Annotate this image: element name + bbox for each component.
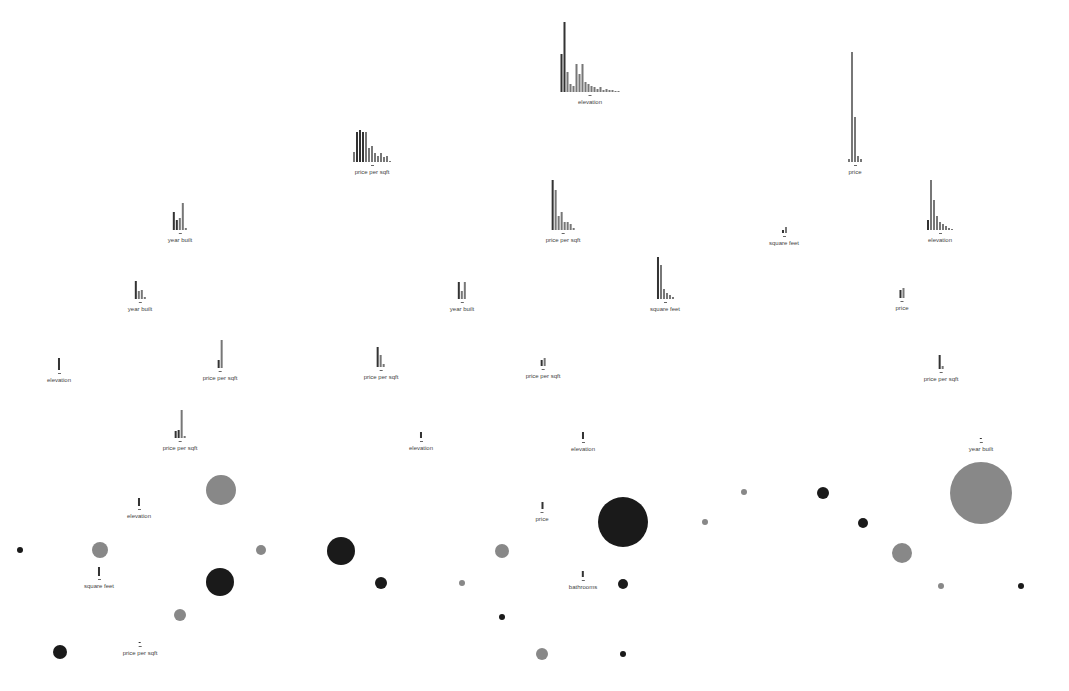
split-node[interactable]: square feet xyxy=(650,257,680,312)
split-node[interactable]: price xyxy=(895,288,908,311)
leaf-node-circle[interactable] xyxy=(817,487,829,499)
node-histogram xyxy=(458,282,466,299)
leaf-node-circle[interactable] xyxy=(598,497,648,547)
leaf-node-circle[interactable] xyxy=(327,537,355,565)
split-node[interactable]: year built xyxy=(168,203,192,243)
histogram-bar xyxy=(606,89,608,92)
leaf-node-circle[interactable] xyxy=(938,583,944,589)
leaf-node-circle[interactable] xyxy=(53,645,67,659)
leaf-node-circle[interactable] xyxy=(741,489,747,495)
histogram-bar xyxy=(672,297,674,299)
histogram-bar xyxy=(603,90,605,92)
split-node[interactable]: price per sqft xyxy=(924,355,959,382)
histogram-bar xyxy=(612,90,614,92)
node-field-label: elevation xyxy=(578,99,602,105)
leaf-node-circle[interactable] xyxy=(620,651,626,657)
split-marker-icon xyxy=(58,373,61,374)
leaf-node-circle[interactable] xyxy=(618,579,628,589)
histogram-bar xyxy=(857,156,859,162)
split-node[interactable]: square feet xyxy=(769,227,799,246)
split-node[interactable]: price per sqft xyxy=(546,180,581,243)
histogram-bar xyxy=(942,366,944,369)
leaf-node-circle[interactable] xyxy=(495,544,509,558)
node-field-label: square feet xyxy=(769,240,799,246)
histogram-bar xyxy=(185,228,187,230)
leaf-node-circle[interactable] xyxy=(536,648,548,660)
histogram-bar xyxy=(362,132,364,162)
node-histogram xyxy=(134,281,145,299)
split-node[interactable]: elevation xyxy=(927,180,953,243)
split-node[interactable]: price xyxy=(535,502,548,522)
histogram-bar xyxy=(570,224,572,230)
split-node[interactable]: elevation xyxy=(561,22,620,105)
histogram-bar xyxy=(386,156,388,162)
split-marker-icon xyxy=(542,369,545,370)
histogram-bar xyxy=(899,290,901,298)
split-marker-icon xyxy=(783,236,786,237)
histogram-bar xyxy=(371,146,373,162)
histogram-bar xyxy=(582,571,584,577)
split-marker-icon xyxy=(460,302,463,303)
leaf-node-circle[interactable] xyxy=(950,462,1012,524)
split-node[interactable]: elevation xyxy=(571,432,595,452)
decision-tree-canvas[interactable]: elevationprice per sqftpriceyear builtpr… xyxy=(0,0,1069,691)
split-node[interactable]: bathrooms xyxy=(569,571,597,590)
histogram-bar xyxy=(594,87,596,92)
split-node[interactable]: elevation xyxy=(409,432,433,451)
histogram-bar xyxy=(182,203,184,230)
split-node[interactable]: price per sqft xyxy=(163,410,198,451)
split-node[interactable]: elevation xyxy=(127,498,151,519)
node-field-label: elevation xyxy=(47,377,71,383)
histogram-bar xyxy=(567,222,569,230)
node-field-label: price xyxy=(895,305,908,311)
histogram-bar xyxy=(588,84,590,92)
histogram-bar xyxy=(666,293,668,299)
split-node[interactable]: price per sqft xyxy=(364,347,399,380)
leaf-node-circle[interactable] xyxy=(375,577,387,589)
node-histogram xyxy=(218,340,223,368)
leaf-node-circle[interactable] xyxy=(858,518,868,528)
histogram-bar xyxy=(564,222,566,230)
split-marker-icon xyxy=(98,579,101,580)
split-node[interactable]: price per sqft xyxy=(526,358,561,379)
leaf-node-circle[interactable] xyxy=(17,547,23,553)
split-node[interactable]: square feet xyxy=(84,567,114,589)
histogram-bar xyxy=(933,200,935,230)
node-histogram xyxy=(138,498,140,506)
split-marker-icon xyxy=(664,302,667,303)
leaf-node-circle[interactable] xyxy=(256,545,266,555)
histogram-bar xyxy=(609,90,611,92)
node-field-label: elevation xyxy=(127,513,151,519)
split-node[interactable]: year built xyxy=(128,281,152,312)
leaf-node-circle[interactable] xyxy=(702,519,708,525)
split-marker-icon xyxy=(179,441,182,442)
split-marker-icon xyxy=(540,512,543,513)
node-field-label: square feet xyxy=(84,583,114,589)
histogram-bar xyxy=(380,355,382,367)
histogram-bar xyxy=(98,567,100,576)
histogram-bar xyxy=(359,130,361,162)
leaf-node-circle[interactable] xyxy=(1018,583,1024,589)
split-marker-icon xyxy=(581,580,584,581)
split-node[interactable]: year built xyxy=(450,282,474,312)
histogram-bar xyxy=(374,153,376,162)
leaf-node-circle[interactable] xyxy=(92,542,108,558)
split-node[interactable]: price per sqft xyxy=(123,642,158,656)
leaf-node-circle[interactable] xyxy=(206,475,236,505)
split-node[interactable]: price per sqft xyxy=(203,340,238,381)
histogram-bar xyxy=(365,132,367,162)
histogram-bar xyxy=(582,432,584,439)
leaf-node-circle[interactable] xyxy=(459,580,465,586)
leaf-node-circle[interactable] xyxy=(206,568,234,596)
split-node[interactable]: price per sqft xyxy=(353,130,391,175)
leaf-node-circle[interactable] xyxy=(892,543,912,563)
split-node[interactable]: year built xyxy=(969,438,993,452)
histogram-bar xyxy=(179,218,181,230)
node-histogram xyxy=(541,502,543,509)
split-node[interactable]: elevation xyxy=(47,358,71,383)
leaf-node-circle[interactable] xyxy=(499,614,505,620)
histogram-bar xyxy=(555,190,557,230)
split-node[interactable]: price xyxy=(848,52,862,175)
node-field-label: elevation xyxy=(928,237,952,243)
leaf-node-circle[interactable] xyxy=(174,609,186,621)
